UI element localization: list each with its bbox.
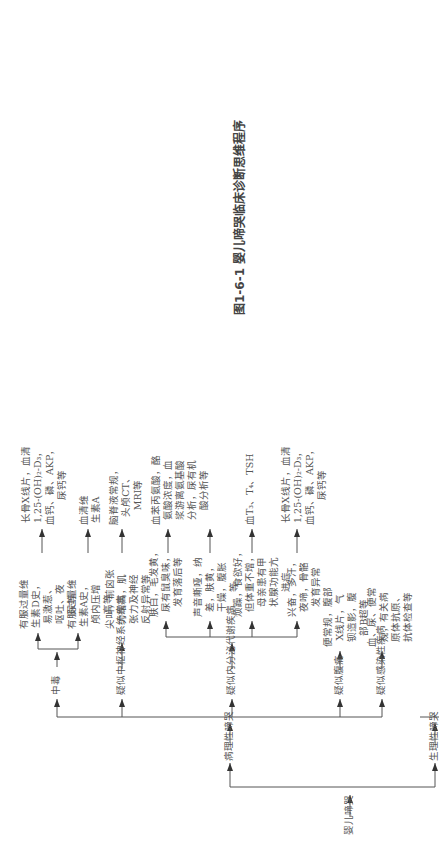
pku-tests: 血苯丙氨酸，酪 氨酸浓度，血 浆游离氨基酸 分析，尿有机 酸分析等 — [150, 455, 210, 525]
endocrine-disease-node: 疑似内分泌代谢疾病 — [225, 605, 237, 695]
cns-tests: 脑脊液常规， 头颅CT、 MRI等 — [108, 465, 144, 525]
vitamin-d-tests: 长骨X线片，血清 1,25-(OH)₂-D₃， 血钙、磷、AKP， 尿钙等 — [20, 445, 68, 525]
pathological-crying-node: 病理性啼哭 — [223, 711, 235, 761]
cns-symptoms: 尖叫，前囟张 力增高，肌 张力及神经 反射异常等 — [104, 569, 152, 629]
abdominal-pain-node: 疑似腹痛 — [333, 655, 345, 695]
vitamin-a-tests: 血清维 生素A — [78, 495, 102, 525]
figure-caption: 图1-6-1 婴儿啼哭临床诊断思维程序 — [230, 120, 247, 315]
physiological-crying-node: 生理性啼哭 — [428, 711, 439, 761]
poisoning-node: 中毒 — [50, 675, 62, 695]
connector-lines — [0, 0, 439, 855]
thyroid-tests: 血T₃、T₄、TSH — [244, 454, 256, 525]
rickets-tests: 长骨X线片，血清 1,25-(OH)₂-D₃， 血钙、磷、AKP， 尿钙等 — [280, 445, 328, 525]
hyperthyroid-symptoms: 烦躁，食欲好， 但体重不增， 母亲患有甲 状腺功能亢 进症 — [232, 547, 292, 617]
pku-symptoms: 肤白，毛发黄， 尿有鼠臭味， 发育落后等 — [148, 547, 184, 617]
rickets-symptoms: 兴奋，多汗， 夜啼，骨骼 发育异常 — [286, 557, 322, 617]
root-node: 婴儿啼哭 — [343, 795, 355, 835]
abdominal-pain-tests: 便常规，腹部 X线片，气 钡造影，腹 部B超等 — [322, 587, 370, 647]
flowchart-canvas: 婴儿啼哭 病理性啼哭 生理性啼哭 中毒 疑似中枢神经系统疾病 疑似内分泌代谢疾病… — [0, 0, 439, 855]
infection-tests: 血、尿、便常 规，有关病 原体抗原、 抗体检查等 — [366, 587, 414, 647]
